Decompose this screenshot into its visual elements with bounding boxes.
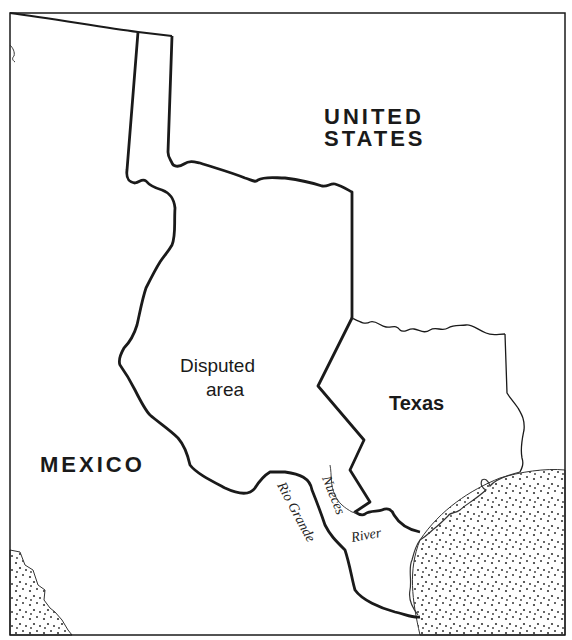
red-river-line bbox=[352, 318, 505, 335]
pacific-ocean-water bbox=[10, 550, 72, 635]
disputed-area-north-boundary bbox=[168, 36, 352, 318]
label-nueces: Nueces bbox=[319, 473, 349, 518]
label-disputed-area-1: Disputed bbox=[180, 355, 255, 376]
label-texas: Texas bbox=[389, 392, 444, 414]
label-river: River bbox=[349, 525, 383, 545]
label-united-states-2: STATES bbox=[324, 126, 426, 151]
map-canvas: UNITED STATES MEXICO Disputed area Texas… bbox=[0, 0, 572, 640]
northern-boundary-line bbox=[10, 13, 172, 36]
gulf-of-mexico-water bbox=[412, 469, 565, 635]
texas-east-border bbox=[505, 334, 524, 472]
label-disputed-area-2: area bbox=[206, 379, 244, 400]
label-mexico: MEXICO bbox=[40, 452, 145, 477]
